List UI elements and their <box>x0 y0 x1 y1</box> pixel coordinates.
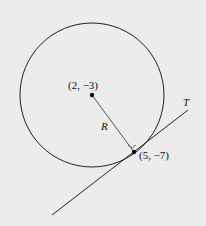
tangent-line <box>52 110 188 215</box>
point-label: (5, −7) <box>139 149 169 162</box>
right-angle-marker <box>128 145 136 148</box>
center-label: (2, −3) <box>68 79 98 92</box>
center-point <box>90 93 94 97</box>
radius-line <box>92 95 134 152</box>
tangent-point <box>132 150 136 154</box>
circle-tangent-diagram: (2, −3) (5, −7) R T <box>0 0 206 226</box>
tangent-label: T <box>183 96 190 108</box>
radius-label: R <box>100 120 108 132</box>
